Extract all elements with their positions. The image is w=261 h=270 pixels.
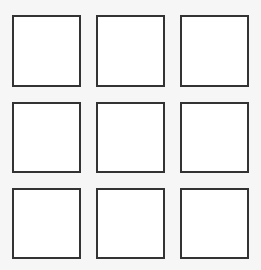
grid-cell-r2-c3[interactable] — [180, 102, 249, 173]
grid-cell-r3-c1[interactable] — [12, 188, 81, 259]
grid-cell-r2-c2[interactable] — [96, 102, 165, 173]
grid-cell-r3-c2[interactable] — [96, 188, 165, 259]
grid-cell-r2-c1[interactable] — [12, 102, 81, 173]
grid-cell-r1-c2[interactable] — [96, 15, 165, 87]
square-grid — [12, 15, 249, 259]
grid-cell-r1-c3[interactable] — [180, 15, 249, 87]
grid-cell-r3-c3[interactable] — [180, 188, 249, 259]
grid-cell-r1-c1[interactable] — [12, 15, 81, 87]
